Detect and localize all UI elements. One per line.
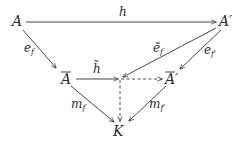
node-A-bar-prime: A′	[163, 71, 179, 87]
label-h: h	[119, 5, 127, 19]
label-m-f: mf	[71, 97, 87, 112]
node-A-prime: A′	[217, 13, 233, 29]
node-A-bar: A	[59, 71, 71, 87]
arrow-e-tilde-f	[123, 28, 216, 77]
label-e-f-prime: ef′	[204, 43, 216, 58]
label-e-tilde-f: ẽf	[153, 41, 165, 56]
node-A-bar-prime-label: A′	[163, 71, 179, 87]
node-A-bar-label: A	[59, 71, 71, 87]
commutative-diagram: A A′ A A′ K h ef ẽf ef′ h̃ mf mf′	[0, 0, 245, 145]
node-K: K	[112, 123, 125, 139]
label-m-f-prime: mf′	[149, 97, 165, 112]
node-A: A	[10, 13, 22, 29]
label-h-tilde: h̃	[93, 60, 101, 76]
